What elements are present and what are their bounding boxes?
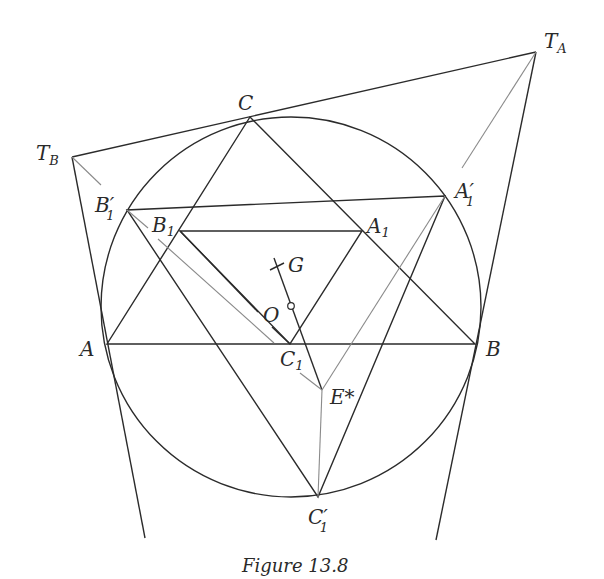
- g-tick: [270, 263, 284, 270]
- figure-canvas: C TA TB B′1 B1 A′1 A1 G O A B C1 E* C′1 …: [0, 0, 604, 579]
- label-b1: B1: [151, 213, 175, 239]
- o-c1-segment: [272, 327, 290, 344]
- label-c1p: C′1: [308, 505, 328, 535]
- label-o: O: [263, 303, 279, 327]
- geometry-diagram: C TA TB B′1 B1 A′1 A1 G O A B C1 E* C′1 …: [0, 0, 604, 579]
- b1-o-segment: [180, 231, 258, 312]
- label-b1p: B′1: [94, 193, 115, 223]
- tangent-line-b: [436, 52, 536, 540]
- label-g: G: [288, 253, 304, 277]
- b1-c1-construction: [158, 239, 274, 343]
- label-tb: TB: [36, 141, 59, 168]
- ta-estar-construction: [462, 52, 536, 168]
- label-a1: A1: [365, 214, 390, 240]
- medial-triangle: [180, 231, 362, 344]
- tangent-line-c: [72, 52, 536, 157]
- label-b: B: [485, 337, 501, 361]
- o-marker: [288, 303, 295, 310]
- label-c: C: [238, 91, 253, 115]
- label-a1p: A′1: [453, 179, 474, 209]
- label-ta: TA: [544, 29, 567, 56]
- label-estar: E*: [329, 385, 355, 409]
- label-a: A: [78, 337, 94, 361]
- figure-caption: Figure 13.8: [241, 555, 348, 576]
- label-c1: C1: [280, 347, 304, 373]
- estar-c1p-construction: [318, 390, 322, 497]
